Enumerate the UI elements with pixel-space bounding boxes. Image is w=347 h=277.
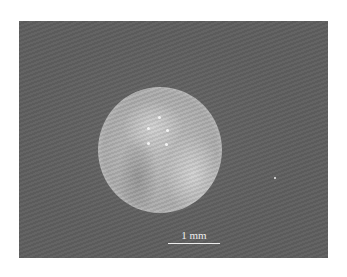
scale-bar-line (168, 243, 220, 244)
micrograph: 1 mm (19, 21, 328, 258)
highlight-dot (147, 127, 150, 130)
sphere (98, 87, 222, 213)
sphere-texture (98, 87, 222, 213)
bright-speck (274, 177, 276, 179)
highlight-dot (147, 142, 150, 145)
scale-bar-label: 1 mm (168, 230, 220, 241)
scale-bar: 1 mm (168, 230, 220, 244)
highlight-dot (165, 143, 168, 146)
highlight-dot (158, 116, 161, 119)
highlight-dot (166, 129, 169, 132)
